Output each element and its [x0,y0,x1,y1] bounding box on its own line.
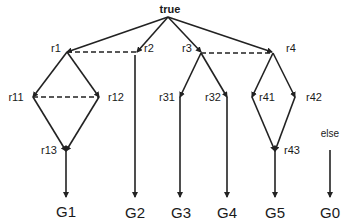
goal-g5: G5 [265,204,285,221]
goal-g1: G1 [56,203,76,220]
r4-subtree [252,53,295,197]
edge-r4-r42 [273,53,295,97]
node-label-r42: r42 [306,91,322,103]
edge-r12-r13 [66,97,99,151]
r1-subtree [33,52,99,197]
goal-g0: G0 [320,204,340,221]
edge-r41-r43 [252,97,275,151]
goal-g2: G2 [125,204,145,221]
node-label-r4: r4 [286,42,296,54]
node-label-r11: r11 [8,91,23,103]
node-label-r13: r13 [41,144,57,156]
root-label: true [160,3,181,15]
node-label-r41: r41 [259,91,275,103]
edge-r1-r11 [33,52,67,97]
edge-r3-r31 [180,53,201,97]
else-label: else [321,128,340,139]
r3-subtree [180,53,227,197]
node-label-r43: r43 [284,144,300,156]
rule-tree-diagram: true r1 r2 r3 r4 r11 r12 [0,0,343,224]
node-label-r2: r2 [144,42,154,54]
edge-r42-r43 [275,97,295,151]
goal-g3: G3 [171,204,191,221]
node-label-r1: r1 [51,42,61,54]
goal-g4: G4 [217,204,237,221]
root-edges [67,17,272,52]
edge-r11-r13 [33,97,66,151]
edge-r1-r12 [67,52,99,97]
node-label-r3: r3 [182,42,192,54]
node-label-r12: r12 [108,91,124,103]
node-label-r32: r32 [205,91,221,103]
node-label-r31: r31 [159,91,175,103]
